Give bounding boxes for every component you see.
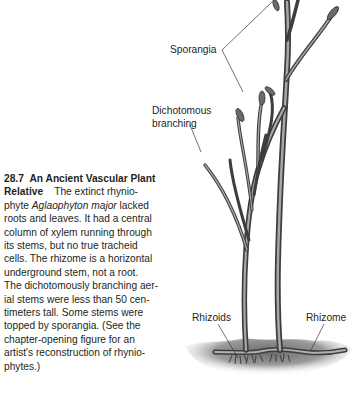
label-dichotomous-branching: Dichotomous branching [152, 105, 211, 130]
caption-line: chapter-opening figure for an [4, 333, 182, 346]
label-dichotomous-line1: Dichotomous [152, 105, 211, 116]
label-rhizoids: Rhizoids [192, 312, 231, 325]
ground-soil [186, 338, 352, 377]
caption-line: cells. The rhizome is a horizontal [4, 252, 182, 265]
caption-line: its stems, but no true tracheid [4, 239, 182, 252]
caption-line: timeters tall. Some stems were [4, 306, 182, 319]
caption-text: lacked [117, 200, 149, 211]
figure-caption: 28.7 An Ancient Vascular Plant Relative … [4, 172, 182, 373]
caption-line: artist's reconstruction of rhynio- [4, 346, 182, 359]
label-rhizome: Rhizome [306, 312, 346, 325]
caption-line: column of xylem running through [4, 226, 182, 239]
figure-title-part2: Relative [4, 186, 43, 197]
caption-line: topped by sporangia. (See the [4, 319, 182, 332]
main-stem [278, 0, 334, 350]
sporangium [326, 5, 341, 21]
caption-line: underground stem, not a root. [4, 266, 182, 279]
caption-line: The dichotomously branching aer- [4, 279, 182, 292]
sporangium [234, 107, 245, 122]
sporangium [259, 91, 265, 105]
caption-line: phyte Aglaophyton major lacked [4, 199, 182, 212]
caption-line: ial stems were less than 50 cen- [4, 293, 182, 306]
caption-line: Relative The extinct rhynio- [4, 185, 182, 198]
caption-line: 28.7 An Ancient Vascular Plant [4, 172, 182, 185]
caption-line: roots and leaves. It had a central [4, 212, 182, 225]
label-sporangia: Sporangia [170, 44, 216, 57]
label-dichotomous-line2: branching [152, 118, 197, 129]
caption-line: phytes.) [4, 360, 182, 373]
figure-number: 28.7 [4, 173, 24, 184]
figure-title-part1: An Ancient Vascular Plant [30, 173, 156, 184]
species-name: Aglaophyton major [32, 200, 117, 211]
caption-text: phyte [4, 200, 32, 211]
sporangium [272, 0, 281, 11]
caption-text: The extinct rhynio- [54, 186, 138, 197]
